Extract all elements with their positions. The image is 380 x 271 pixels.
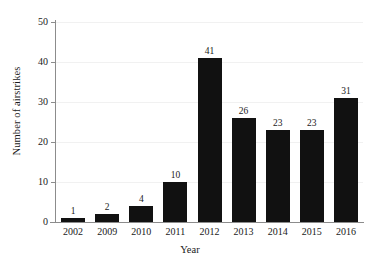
bar-rect[interactable] xyxy=(300,130,324,222)
bar-group[interactable]: 10 xyxy=(163,168,187,222)
bar-value-label: 23 xyxy=(307,118,317,128)
y-axis-tick-label: 0 xyxy=(18,217,48,227)
y-axis-tick-label: 50 xyxy=(18,17,48,27)
x-axis-tick-label: 2015 xyxy=(295,226,329,238)
bar-value-label: 2 xyxy=(105,202,110,212)
x-axis-tick-label: 2009 xyxy=(90,226,124,238)
y-axis-line xyxy=(55,20,56,223)
bar-rect[interactable] xyxy=(95,214,119,222)
bar-rect[interactable] xyxy=(334,98,358,222)
bar-value-label: 31 xyxy=(341,86,351,96)
bar-group[interactable]: 1 xyxy=(61,204,85,222)
bar-rect[interactable] xyxy=(163,182,187,222)
bar-group[interactable]: 26 xyxy=(232,104,256,222)
bar-value-label: 1 xyxy=(71,206,76,216)
x-axis-tick-label: 2010 xyxy=(124,226,158,238)
bar-group[interactable]: 2 xyxy=(95,200,119,222)
x-axis-tick-label: 2012 xyxy=(192,226,226,238)
plot-area: 124104126232331 xyxy=(56,22,363,222)
bar-value-label: 41 xyxy=(205,46,215,56)
x-axis-title: Year xyxy=(0,244,380,256)
bar-rect[interactable] xyxy=(129,206,153,222)
x-axis-tick-label: 2016 xyxy=(329,226,363,238)
bar-group[interactable]: 41 xyxy=(198,44,222,222)
y-axis-tick-label: 30 xyxy=(18,97,48,107)
bar-group[interactable]: 23 xyxy=(300,116,324,222)
bar-rect[interactable] xyxy=(232,118,256,222)
bar-value-label: 23 xyxy=(273,118,283,128)
x-axis-tick-label: 2013 xyxy=(227,226,261,238)
y-axis-tick-label: 10 xyxy=(18,177,48,187)
x-axis-tick-label: 2014 xyxy=(261,226,295,238)
y-axis-tick-label: 20 xyxy=(18,137,48,147)
bar-value-label: 4 xyxy=(139,194,144,204)
y-axis-tick-label: 40 xyxy=(18,57,48,67)
bar-value-label: 26 xyxy=(239,106,249,116)
x-axis-tick-label: 2002 xyxy=(56,226,90,238)
bar-group[interactable]: 31 xyxy=(334,84,358,222)
gridline xyxy=(56,22,363,23)
y-axis-title: Number of airstrikes xyxy=(8,0,24,222)
bar-value-label: 10 xyxy=(171,170,181,180)
bar-rect[interactable] xyxy=(266,130,290,222)
bar-group[interactable]: 4 xyxy=(129,192,153,222)
x-axis-line xyxy=(50,222,364,223)
x-axis-tick-label: 2011 xyxy=(158,226,192,238)
bar-rect[interactable] xyxy=(198,58,222,222)
bar-group[interactable]: 23 xyxy=(266,116,290,222)
bar-chart-figure: Number of airstrikes 01020304050 1241041… xyxy=(0,0,380,271)
